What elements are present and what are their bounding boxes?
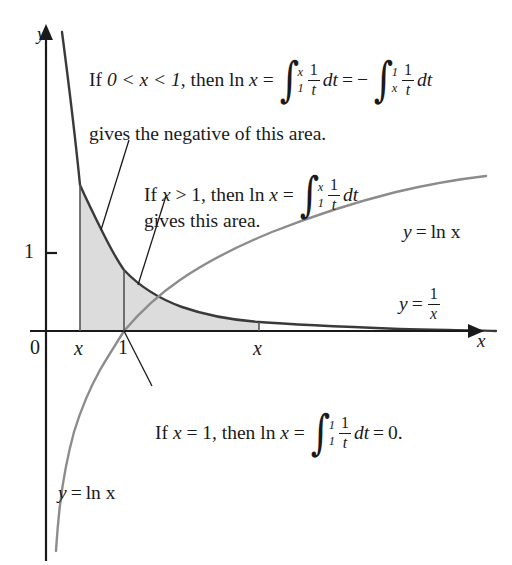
curve-label-lhs: y xyxy=(403,222,412,242)
annotation-zero-line: If x = 1 , then ln x = ∫ 1 1 1 t dt = 0. xyxy=(155,415,403,451)
fraction-numerator: 1 xyxy=(402,62,414,79)
curve-label-equals: = xyxy=(416,222,427,242)
differential-dt: dt xyxy=(417,70,432,90)
annotation-equals: = xyxy=(258,70,274,90)
fraction-one-over-t: 1 t xyxy=(308,62,320,98)
annotation-tail-value: 0. xyxy=(388,423,403,443)
fraction-numerator: 1 xyxy=(339,415,351,432)
x-axis-label: x xyxy=(477,331,485,350)
integral-sign: ∫ xyxy=(279,63,298,97)
annotation-then: , then ln xyxy=(201,185,269,205)
fraction-numerator: 1 xyxy=(308,62,320,79)
annotation-variable: x xyxy=(162,185,171,205)
fraction-denominator: t xyxy=(330,197,338,214)
annotation-then: , then ln xyxy=(181,70,249,90)
annotation-negative-line2: gives the negative of this area. xyxy=(89,124,326,144)
fraction-denominator: x xyxy=(428,306,439,323)
curve-label-lhs: y xyxy=(399,294,408,314)
annotation-negative-line1: If 0 < x < 1 , then ln x = ∫ x 1 1 t dt … xyxy=(89,62,432,98)
fraction-numerator: 1 xyxy=(428,286,440,303)
annotation-condition: > 1 xyxy=(171,185,202,205)
fraction-denominator: t xyxy=(404,82,412,99)
integral-4: ∫ 1 1 xyxy=(308,416,336,450)
integral-sign: ∫ xyxy=(311,416,330,450)
integral-1: ∫ x 1 xyxy=(277,63,305,97)
leader-line-zero-point xyxy=(124,331,152,386)
fraction-denominator: t xyxy=(310,82,318,99)
fraction-one-over-t: 1 t xyxy=(339,415,351,451)
differential-dt: dt xyxy=(354,423,369,443)
annotation-mid-equals: = xyxy=(342,70,353,90)
curve-label-natural-log-left: y = ln x xyxy=(58,483,115,503)
annotation-if: If xyxy=(155,423,173,443)
fraction-one-over-t: 1 t xyxy=(402,62,414,98)
integral-3: ∫ x 1 xyxy=(297,178,325,212)
fraction-one-over-x: 1 x xyxy=(428,286,440,322)
annotation-condition: 0 < x < 1 xyxy=(107,70,181,90)
curve-label-natural-log-right: y = ln x xyxy=(403,222,460,242)
curve-label-rhs: ln x xyxy=(431,222,461,242)
annotation-variable: x xyxy=(173,423,182,443)
curve-label-equals: = xyxy=(412,294,423,314)
annotation-if: If xyxy=(144,185,162,205)
origin-label: 0 xyxy=(30,337,40,357)
annotation-positive-line2: gives this area. xyxy=(144,211,260,231)
y-tick-label-1: 1 xyxy=(24,241,34,261)
x-tick-label-right-x: x xyxy=(253,338,262,358)
curve-natural-log-left xyxy=(56,331,124,551)
annotation-equals: = xyxy=(278,185,294,205)
integral-2: ∫ 1 x xyxy=(371,63,399,97)
curve-label-reciprocal: y = 1 x xyxy=(399,286,441,322)
x-tick-label-one: 1 xyxy=(118,337,128,357)
logarithm-area-figure: y x 0 1 x 1 x y = ln x y = 1 x y = ln x … xyxy=(0,0,512,565)
annotation-variable-2: x xyxy=(280,423,289,443)
integral-sign: ∫ xyxy=(374,63,393,97)
leader-line-negative-area xyxy=(101,140,129,230)
annotation-condition: = 1 xyxy=(182,423,213,443)
fraction-denominator: t xyxy=(341,435,349,452)
curve-label-lhs: y xyxy=(58,483,67,503)
y-axis-label: y xyxy=(37,24,45,43)
annotation-positive-line1: If x > 1 , then ln x = ∫ x 1 1 t dt xyxy=(144,177,358,213)
curve-label-rhs: ln x xyxy=(86,483,116,503)
annotation-variable: x xyxy=(249,70,258,90)
annotation-tail-equals: = xyxy=(373,423,384,443)
differential-dt: dt xyxy=(343,185,358,205)
shaded-region-positive-area xyxy=(124,270,259,331)
fraction-numerator: 1 xyxy=(328,177,340,194)
curve-label-equals: = xyxy=(71,483,82,503)
annotation-equals: = xyxy=(289,423,305,443)
annotation-variable-2: x xyxy=(269,185,278,205)
x-tick-label-left-x: x xyxy=(74,338,83,358)
integral-sign: ∫ xyxy=(300,178,319,212)
annotation-then: , then ln xyxy=(212,423,280,443)
annotation-if: If xyxy=(89,70,107,90)
differential-dt: dt xyxy=(323,70,338,90)
fraction-one-over-t: 1 t xyxy=(328,177,340,213)
annotation-minus-sign: − xyxy=(357,70,368,90)
